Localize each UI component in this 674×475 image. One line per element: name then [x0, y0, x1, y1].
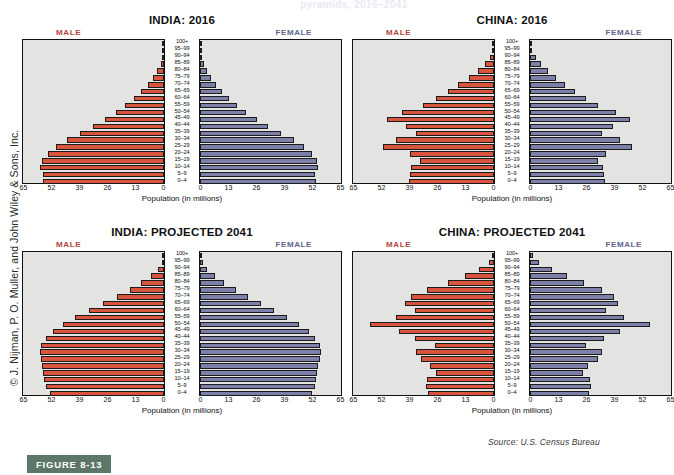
female-bar — [530, 384, 591, 389]
female-plot — [199, 39, 342, 184]
age-group-label: 60–64 — [165, 307, 199, 313]
age-group-label: 60–64 — [495, 307, 529, 313]
male-bar — [53, 329, 164, 334]
male-bar — [56, 144, 164, 149]
chart-title: INDIA: 2016 — [22, 14, 342, 26]
female-legend-label: FEMALE — [276, 240, 313, 249]
female-bar — [530, 356, 598, 361]
age-group-label: 85–89 — [495, 60, 529, 66]
x-tick-label: 0 — [492, 396, 496, 403]
x-tick-label: 52 — [378, 184, 386, 191]
female-bar — [530, 363, 588, 368]
chart-title: INDIA: PROJECTED 2041 — [22, 226, 342, 238]
age-group-label: 15–19 — [495, 157, 529, 163]
male-plot — [22, 39, 165, 184]
age-group-label: 25–29 — [165, 143, 199, 149]
x-tick-label: 39 — [281, 184, 289, 191]
male-plot — [352, 251, 495, 396]
male-bar — [117, 294, 164, 299]
female-bar — [200, 137, 294, 142]
age-group-label: 70–74 — [495, 81, 529, 87]
x-tick-label: 65 — [350, 396, 358, 403]
female-bar — [200, 48, 202, 53]
age-group-label: 0–4 — [165, 390, 199, 396]
male-bar — [426, 384, 494, 389]
male-plot — [352, 39, 495, 184]
male-bar — [435, 343, 494, 348]
female-bar — [200, 131, 281, 136]
x-tick-label: 26 — [104, 184, 112, 191]
female-bar — [530, 55, 536, 60]
x-tick-label: 0 — [529, 184, 533, 191]
male-legend-label: MALE — [386, 28, 411, 37]
female-bar — [530, 308, 606, 313]
female-bar — [200, 82, 216, 87]
female-bar — [530, 165, 603, 170]
male-bar — [44, 377, 164, 382]
age-group-label: 75–79 — [165, 74, 199, 80]
male-bar — [411, 165, 494, 170]
x-tick-label: 65 — [350, 184, 358, 191]
x-axis-title: Population (in millions) — [22, 406, 342, 415]
age-group-label: 20–24 — [495, 362, 529, 368]
female-bar — [200, 41, 202, 46]
female-legend-label: FEMALE — [606, 28, 643, 37]
female-bar — [200, 384, 315, 389]
age-group-label: 40–44 — [495, 334, 529, 340]
male-bar — [415, 336, 494, 341]
female-legend-label: FEMALE — [606, 240, 643, 249]
male-bar — [75, 315, 164, 320]
age-group-label: 15–19 — [495, 369, 529, 375]
male-bar — [125, 103, 164, 108]
chart-title: CHINA: PROJECTED 2041 — [352, 226, 672, 238]
female-bar — [530, 349, 602, 354]
x-tick-label: 52 — [378, 396, 386, 403]
age-group-label: 10–14 — [495, 376, 529, 382]
female-bar — [200, 294, 248, 299]
female-plot — [199, 251, 342, 396]
male-bar — [48, 151, 164, 156]
age-group-axis: 100+95–9990–9485–8980–8475–7970–7465–696… — [165, 251, 199, 396]
age-group-label: 50–54 — [495, 321, 529, 327]
male-bar — [134, 96, 164, 101]
female-bar — [200, 315, 287, 320]
male-bar — [479, 267, 494, 272]
pyramid-panel-3: CHINA: PROJECTED 2041MALEFEMALE100+95–99… — [352, 226, 672, 431]
male-bar — [103, 301, 164, 306]
female-bar — [530, 89, 575, 94]
age-group-label: 75–79 — [495, 74, 529, 80]
male-bar — [162, 48, 164, 53]
x-axis-title: Population (in millions) — [352, 194, 672, 203]
male-bar — [489, 260, 494, 265]
female-bar — [530, 329, 620, 334]
male-bar — [158, 267, 164, 272]
x-tick-label: 13 — [225, 184, 233, 191]
x-axis-title: Population (in millions) — [22, 194, 342, 203]
age-group-label: 40–44 — [165, 334, 199, 340]
age-group-label: 25–29 — [495, 355, 529, 361]
male-bar — [370, 322, 494, 327]
male-bar — [469, 75, 494, 80]
age-group-label: 45–49 — [165, 115, 199, 121]
age-group-label: 60–64 — [165, 95, 199, 101]
female-bar — [530, 280, 584, 285]
male-bar — [448, 280, 494, 285]
age-group-label: 0–4 — [495, 178, 529, 184]
female-bar — [200, 260, 203, 265]
male-bar — [399, 329, 494, 334]
female-bar — [200, 158, 317, 163]
age-group-label: 5–9 — [495, 383, 529, 389]
x-tick-label: 0 — [162, 184, 166, 191]
male-legend-label: MALE — [56, 28, 81, 37]
age-group-label: 40–44 — [165, 122, 199, 128]
age-group-label: 60–64 — [495, 95, 529, 101]
female-bar — [530, 273, 567, 278]
female-bar — [530, 336, 604, 341]
male-bar — [141, 89, 164, 94]
male-bar — [162, 260, 164, 265]
age-group-label: 35–39 — [495, 341, 529, 347]
female-bar — [200, 343, 320, 348]
age-group-label: 35–39 — [165, 129, 199, 135]
age-group-label: 15–19 — [165, 157, 199, 163]
male-bar — [436, 370, 494, 375]
